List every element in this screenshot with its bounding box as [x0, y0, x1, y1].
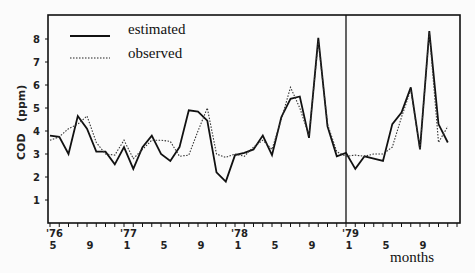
- legend: estimated observed: [70, 21, 186, 61]
- y-tick-label: 8: [33, 34, 40, 45]
- x-tick-year-label: '77: [120, 228, 137, 239]
- x-tick-year-label: '78: [231, 228, 248, 239]
- x-tick-month-label: 1: [124, 240, 131, 251]
- x-tick-year-label: '79: [342, 228, 359, 239]
- legend-estimated-label: estimated: [128, 21, 186, 37]
- y-tick-label: 1: [33, 195, 40, 206]
- x-tick-month-label: 5: [272, 240, 279, 251]
- legend-observed-label: observed: [128, 45, 183, 61]
- series-group: [50, 31, 448, 182]
- x-tick-month-label: 5: [383, 240, 390, 251]
- x-tick-month-label: 1: [235, 240, 242, 251]
- x-tick-year-label: '76: [46, 228, 63, 239]
- x-tick-month-label: 1: [346, 240, 353, 251]
- x-tick-month-label: 9: [309, 240, 316, 251]
- y-tick-label: 5: [33, 103, 40, 114]
- y-tick-label: 3: [33, 149, 40, 160]
- x-axis: '7659'77159'78159'79159: [46, 223, 457, 251]
- plot-border: [48, 15, 460, 223]
- x-tick-month-label: 9: [87, 240, 94, 251]
- plot-frame: [48, 15, 460, 223]
- y-axis: 12345678: [33, 34, 48, 206]
- cod-line-chart: 12345678 '7659'77159'78159'79159 estimat…: [0, 0, 475, 273]
- x-axis-title: months: [390, 249, 434, 265]
- y-tick-label: 4: [33, 126, 40, 137]
- x-tick-month-label: 9: [198, 240, 205, 251]
- y-tick-label: 2: [33, 172, 40, 183]
- y-tick-label: 7: [33, 57, 40, 68]
- y-axis-title: COD (ppm): [15, 85, 28, 160]
- y-tick-label: 6: [33, 80, 40, 91]
- x-tick-month-label: 5: [161, 240, 168, 251]
- series-line-estimated: [50, 31, 448, 182]
- x-tick-month-label: 5: [50, 240, 57, 251]
